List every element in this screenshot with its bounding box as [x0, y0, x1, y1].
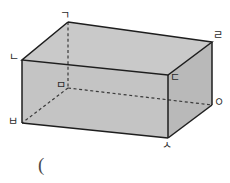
vertex-label-top-front-left: ㄴ: [9, 52, 19, 63]
vertex-label-top-front-right: ㄷ: [170, 72, 180, 83]
vertex-label-bottom-front-right: ㅅ: [162, 140, 172, 151]
rectangular-prism-figure: ㄱ ㄴ ㄷ ㄹ ㅁ ㅇ ㅂ ㅅ (: [0, 0, 230, 183]
prism-drawing: [0, 0, 230, 183]
vertex-label-bottom-back-left: ㅁ: [56, 80, 66, 91]
vertex-label-top-back-right: ㄹ: [213, 30, 223, 41]
figure-caption: (: [38, 155, 44, 174]
vertex-label-top-back-left: ㄱ: [60, 10, 70, 21]
vertex-label-bottom-back-right: ㅇ: [214, 97, 224, 108]
vertex-label-bottom-front-left: ㅂ: [8, 116, 18, 127]
